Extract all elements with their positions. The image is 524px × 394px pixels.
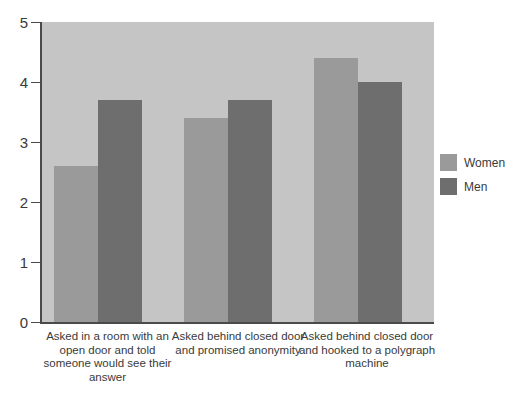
- x-axis-line: [40, 322, 434, 324]
- y-tick-0: [31, 322, 40, 323]
- y-tick-3: [31, 142, 40, 143]
- legend-swatch-women-icon: [440, 154, 457, 171]
- legend: Women Men: [440, 154, 505, 202]
- x-category-label-1: Asked in a room with an open door and to…: [35, 330, 180, 384]
- legend-swatch-men-icon: [440, 178, 457, 195]
- legend-item-men: Men: [440, 178, 505, 195]
- bar-women-group-1: [54, 166, 98, 322]
- y-tick-label-5: 5: [0, 15, 28, 30]
- y-tick-4: [31, 82, 40, 83]
- x-category-label-3: Asked behind closed door and hooked to a…: [298, 330, 436, 371]
- bar-women-group-2: [184, 118, 228, 322]
- y-tick-label-4: 4: [0, 75, 28, 90]
- bar-men-group-3: [358, 82, 402, 322]
- y-tick-1: [31, 262, 40, 263]
- y-tick-label-1: 1: [0, 255, 28, 270]
- bar-men-group-1: [98, 100, 142, 322]
- legend-label-women: Women: [464, 156, 505, 170]
- y-axis-ticks: 0 1 2 3 4 5: [40, 22, 41, 322]
- legend-label-men: Men: [464, 180, 487, 194]
- y-tick-5: [31, 22, 40, 23]
- x-category-label-2: Asked behind closed door and promised an…: [168, 330, 308, 357]
- legend-item-women: Women: [440, 154, 505, 171]
- plot-area: [42, 22, 434, 322]
- y-tick-label-0: 0: [0, 315, 28, 330]
- y-tick-label-2: 2: [0, 195, 28, 210]
- bar-women-group-3: [314, 58, 358, 322]
- y-tick-2: [31, 202, 40, 203]
- y-tick-label-3: 3: [0, 135, 28, 150]
- bar-men-group-2: [228, 100, 272, 322]
- bar-chart-figure: 0 1 2 3 4 5 Asked in a room with an open…: [0, 0, 524, 394]
